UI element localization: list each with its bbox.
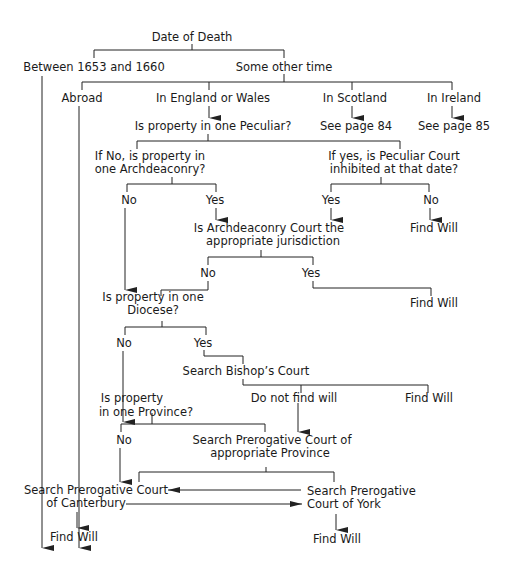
node-see-page-85: See page 85 [418, 120, 490, 133]
node-abroad: Abroad [61, 92, 102, 105]
node-date-of-death: Date of Death [152, 31, 233, 44]
node-inhib-no: No [423, 194, 439, 207]
node-canterbury-line2: of Canterbury [46, 497, 126, 510]
node-arch-court-line2: appropriate jurisdiction [206, 235, 340, 248]
node-find-will-2: Find Will [410, 297, 458, 310]
flowchart-canvas: Date of Death Between 1653 and 1660 Some… [0, 0, 512, 571]
node-do-not-find-will: Do not find will [251, 392, 338, 405]
node-province-line1: Is property [101, 392, 163, 405]
node-search-bishops-court: Search Bishop’s Court [183, 365, 310, 378]
node-find-will-4: Find Will [50, 531, 98, 544]
node-york-line2: Court of York [307, 498, 381, 511]
node-dio-yes: Yes [194, 337, 213, 350]
node-peculiar-inhibited-line2: inhibited at that date? [330, 163, 458, 176]
node-prov-no: No [116, 434, 132, 447]
node-archdeaconry-q-line2: one Archdeaconry? [95, 163, 206, 176]
node-diocese-line2: Diocese? [127, 304, 179, 317]
node-one-peculiar: Is property in one Peculiar? [135, 120, 292, 133]
node-some-other-time: Some other time [236, 61, 333, 74]
node-court-no: No [200, 267, 216, 280]
node-arch-no: No [121, 194, 137, 207]
node-see-page-84: See page 84 [320, 120, 392, 133]
node-scotland: In Scotland [323, 92, 387, 105]
node-ireland: In Ireland [427, 92, 481, 105]
node-prerogative-line2: appropriate Province [210, 447, 330, 460]
node-find-will-1: Find Will [410, 222, 458, 235]
node-between-1653-1660: Between 1653 and 1660 [23, 61, 164, 74]
node-find-will-3: Find Will [405, 392, 453, 405]
node-england-wales: In England or Wales [156, 92, 270, 105]
node-inhib-yes: Yes [322, 194, 341, 207]
node-find-will-5: Find Will [313, 533, 361, 546]
node-province-line2: in one Province? [99, 406, 193, 419]
node-dio-no: No [116, 337, 132, 350]
node-arch-yes: Yes [206, 194, 225, 207]
node-court-yes: Yes [302, 267, 321, 280]
